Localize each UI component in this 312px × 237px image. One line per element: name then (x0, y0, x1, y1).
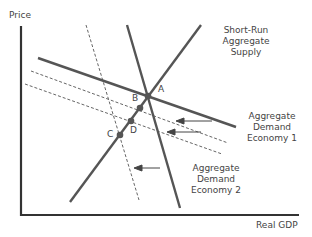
aggregate-demand-supply-diagram: Price Real GDP Short-Run Aggregate Suppl… (0, 0, 312, 237)
ad2-label-line3: Economy 2 (180, 185, 252, 196)
ad2-label-line1: Aggregate (180, 163, 252, 174)
x-axis-label: Real GDP (256, 220, 298, 231)
ad-economy2-shifted-dashed (86, 25, 139, 200)
point-c-marker (117, 132, 124, 139)
shift-arrow-3 (134, 165, 160, 171)
point-d-marker (128, 118, 135, 125)
ad-economy2-curve (127, 25, 180, 208)
sras-label-line1: Short-Run (206, 25, 286, 36)
ad1-label-line3: Economy 1 (236, 133, 308, 144)
shift-arrow-2 (167, 129, 201, 135)
point-a-marker (145, 93, 152, 100)
point-b-label: B (132, 93, 138, 103)
sras-label-line3: Supply (206, 47, 286, 58)
point-c-label: C (107, 129, 113, 139)
y-axis-label: Price (9, 10, 31, 21)
ad-economy2-label: Aggregate Demand Economy 2 (180, 163, 252, 196)
point-b-marker (137, 105, 144, 112)
ad1-label-line1: Aggregate (236, 111, 308, 122)
shift-arrow-1 (176, 118, 212, 124)
ad-economy1-label: Aggregate Demand Economy 1 (236, 111, 308, 144)
sras-label: Short-Run Aggregate Supply (206, 25, 286, 58)
point-a-label: A (158, 84, 164, 94)
ad2-label-line2: Demand (180, 174, 252, 185)
point-d-label: D (130, 125, 137, 135)
ad-economy1-shifted-dashed-2 (25, 84, 222, 154)
sras-label-line2: Aggregate (206, 36, 286, 47)
ad1-label-line2: Demand (236, 122, 308, 133)
